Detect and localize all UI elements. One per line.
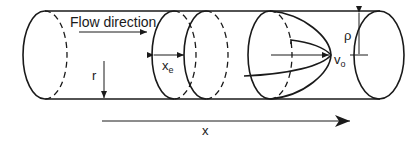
tube-left-end-front xyxy=(23,11,45,99)
flow-tube-diagram: Flow direction xe r vo ρ x xyxy=(0,0,418,142)
paraboloid-base-front xyxy=(248,11,270,99)
tube-left-end-back xyxy=(45,11,67,99)
x-axis-label: x xyxy=(202,123,209,138)
flow-direction-label: Flow direction xyxy=(70,14,156,30)
velocity-paraboloid xyxy=(244,11,331,99)
v-o-label: vo xyxy=(334,52,346,69)
rho-label: ρ xyxy=(344,28,351,43)
slice-2-back xyxy=(206,11,228,99)
paraboloid-upper-line xyxy=(291,40,331,55)
paraboloid-lower-line xyxy=(244,55,331,76)
slice-2-front xyxy=(184,11,206,99)
x-e-label: xe xyxy=(162,58,174,75)
r-label: r xyxy=(92,68,97,83)
